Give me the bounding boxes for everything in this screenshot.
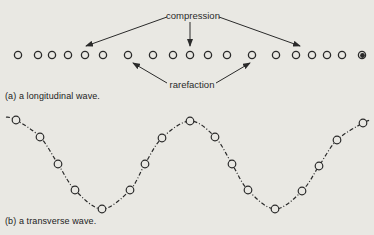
transverse-particle [333, 136, 341, 144]
compression-arrow-right [219, 17, 300, 46]
longitudinal-particle [223, 51, 230, 58]
transverse-particle [211, 133, 219, 141]
transverse-particle [54, 160, 62, 168]
transverse-particle [228, 160, 236, 168]
caption-longitudinal-wave: (a) a longitudinal wave. [5, 91, 100, 101]
transverse-particle [244, 186, 252, 194]
longitudinal-particle [323, 51, 330, 58]
longitudinal-particle [204, 51, 211, 58]
longitudinal-particle [14, 51, 21, 58]
longitudinal-particle [338, 51, 345, 58]
rarefaction-arrow-right [216, 63, 250, 83]
longitudinal-particle [272, 51, 279, 58]
longitudinal-particle [169, 51, 176, 58]
rarefaction-label: rarefaction [170, 79, 215, 90]
compression-arrow-left [86, 17, 167, 46]
longitudinal-particle [34, 51, 41, 58]
longitudinal-particle [292, 51, 299, 58]
longitudinal-particle [81, 51, 88, 58]
longitudinal-particle [64, 51, 71, 58]
transverse-particle [359, 119, 367, 127]
longitudinal-particle [248, 51, 255, 58]
rarefaction-arrow-left [133, 63, 167, 83]
longitudinal-particle [149, 51, 156, 58]
transverse-particles [12, 116, 367, 213]
transverse-particle [158, 134, 166, 142]
filled-particle-dot [360, 53, 365, 58]
longitudinal-particle [48, 51, 55, 58]
transverse-particle [98, 205, 106, 213]
transverse-particle [186, 117, 194, 125]
transverse-particle [271, 205, 279, 213]
longitudinal-particle [308, 51, 315, 58]
transverse-particle [12, 116, 20, 124]
transverse-particle [298, 187, 306, 195]
longitudinal-particle [124, 51, 131, 58]
wave-diagram: compression rarefaction [0, 0, 374, 235]
transverse-particle [36, 133, 44, 141]
compression-label: compression [166, 10, 220, 21]
longitudinal-particle [186, 51, 193, 58]
transverse-particle [126, 186, 134, 194]
longitudinal-particles [14, 51, 365, 58]
caption-transverse-wave: (b) a transverse wave. [5, 216, 96, 226]
transverse-particle [315, 162, 323, 170]
transverse-particle [141, 160, 149, 168]
longitudinal-particle [99, 51, 106, 58]
transverse-particle [71, 186, 79, 194]
compression-arrows [86, 17, 300, 46]
